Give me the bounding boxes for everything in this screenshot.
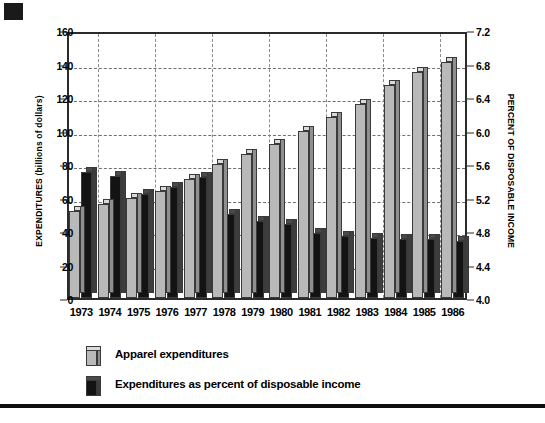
y-axis-right-tick-mark: [467, 132, 474, 133]
y-axis-left-tick-label: 20: [33, 261, 73, 273]
y-axis-left-tick-label: 100: [33, 127, 73, 139]
bar-apparel-expenditures: [298, 131, 309, 299]
gridline-horizontal: [69, 135, 465, 136]
legend-item: Apparel expenditures: [86, 344, 466, 374]
y-axis-left-tick-mark: [60, 99, 67, 100]
y-axis-left-tick-label: 80: [33, 160, 73, 172]
corner-mark: [4, 3, 23, 20]
y-axis-left-tick-label: 40: [33, 227, 73, 239]
bar-apparel-expenditures: [441, 62, 452, 298]
y-axis-left-tick-label: 0: [33, 294, 73, 306]
y-axis-left-tick-mark: [60, 166, 67, 167]
y-axis-left-tick-mark: [60, 65, 67, 66]
legend-swatch-apparel-expenditures: [86, 346, 101, 366]
bar-apparel-expenditures: [69, 211, 80, 298]
y-axis-right-tick-mark: [467, 233, 474, 234]
y-axis-right-tick-label: 6.0: [476, 127, 516, 139]
y-axis-left-tick-mark: [60, 233, 67, 234]
legend-label: Expenditures as percent of disposable in…: [115, 378, 361, 390]
legend-label: Apparel expenditures: [115, 348, 229, 360]
y-axis-right-tick-mark: [467, 65, 474, 66]
bar-apparel-expenditures: [355, 104, 366, 298]
plot-area: [67, 32, 467, 300]
y-axis-right-tick-label: 5.2: [476, 194, 516, 206]
bar-apparel-expenditures: [126, 198, 137, 299]
bar-apparel-expenditures: [384, 85, 395, 298]
y-axis-right-tick-label: 4.0: [476, 294, 516, 306]
y-axis-right-tick-label: 7.2: [476, 26, 516, 38]
y-axis-right-tick-mark: [467, 99, 474, 100]
y-axis-right-tick-mark: [467, 300, 474, 301]
y-axis-right-tick-mark: [467, 166, 474, 167]
y-axis-right-tick-mark: [467, 32, 474, 33]
y-axis-right-tick-mark: [467, 199, 474, 200]
chart-figure: EXPENDITURES (billions of dollars) PERCE…: [0, 0, 545, 423]
y-axis-left-tick-label: 160: [33, 26, 73, 38]
y-axis-left-tick-label: 140: [33, 60, 73, 72]
y-axis-left-tick-mark: [60, 300, 67, 301]
y-axis-right-tick-mark: [467, 266, 474, 267]
bar-apparel-expenditures: [269, 144, 280, 298]
y-axis-right-tick-label: 4.8: [476, 227, 516, 239]
legend-item: Expenditures as percent of disposable in…: [86, 374, 466, 404]
y-axis-left-tick-label: 60: [33, 194, 73, 206]
gridline-horizontal: [69, 101, 465, 102]
bar-apparel-expenditures: [155, 191, 166, 298]
x-axis-tick-label: 1986: [431, 306, 475, 318]
y-axis-right-tick-label: 6.4: [476, 93, 516, 105]
plot-inner: [69, 34, 465, 298]
gridline-horizontal: [69, 68, 465, 69]
bar-apparel-expenditures: [184, 179, 195, 298]
bar-apparel-expenditures: [412, 72, 423, 298]
y-axis-left-tick-mark: [60, 266, 67, 267]
legend-swatch-percent-disposable-income: [86, 376, 101, 396]
y-axis-left-tick-label: 120: [33, 93, 73, 105]
bar-apparel-expenditures: [326, 117, 337, 298]
y-axis-right-tick-label: 4.4: [476, 261, 516, 273]
bottom-rule: [0, 404, 545, 408]
y-axis-left-tick-mark: [60, 32, 67, 33]
y-axis-left-tick-mark: [60, 199, 67, 200]
bar-apparel-expenditures: [212, 164, 223, 298]
bar-apparel-expenditures: [98, 204, 109, 298]
gridline-horizontal: [69, 168, 465, 169]
y-axis-right-tick-label: 5.6: [476, 160, 516, 172]
chart-legend: Apparel expenditures Expenditures as per…: [86, 344, 466, 404]
y-axis-right-tick-label: 6.8: [476, 60, 516, 72]
y-axis-left-tick-mark: [60, 132, 67, 133]
bar-apparel-expenditures: [241, 154, 252, 298]
